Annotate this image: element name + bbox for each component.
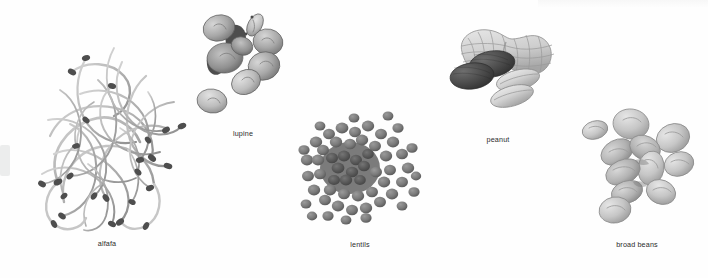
- scan-edge-artifact: [0, 145, 10, 176]
- caption-lupine: lupine: [233, 129, 253, 138]
- specimen-broad-beans: [575, 108, 699, 226]
- lentils-pile-icon: [298, 108, 422, 226]
- caption-peanut: peanut: [487, 135, 510, 144]
- specimen-lupine: [192, 8, 294, 116]
- broad-beans-icon: [575, 108, 699, 226]
- specimen-alfafa: [28, 32, 188, 232]
- figure-plate: alfafa: [0, 0, 708, 278]
- caption-broad-beans: broad beans: [616, 240, 658, 249]
- lupine-seeds-icon: [192, 8, 294, 116]
- caption-lentils: lentils: [350, 240, 369, 249]
- caption-alfafa: alfafa: [98, 239, 116, 248]
- specimen-lentils: [298, 108, 422, 226]
- specimen-peanut: [444, 22, 556, 112]
- peanut-icon: [444, 22, 556, 112]
- scan-band-artifact: [538, 0, 708, 7]
- alfalfa-sprouts-icon: [28, 32, 188, 232]
